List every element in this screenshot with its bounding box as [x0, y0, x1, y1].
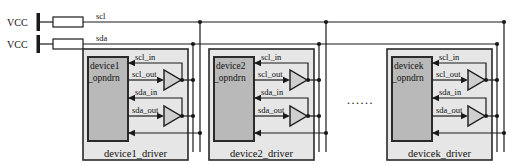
device2-driver-label: device2_driver — [230, 148, 293, 159]
pullup-resistor-scl — [53, 17, 83, 27]
device2-scl-line-junction-dot — [324, 20, 328, 24]
device2-sda-line-junction-dot — [317, 42, 321, 46]
i2c-bus-diagram: VCCsclVCCsdadevice1_opndrndevice1_driver… — [0, 0, 523, 164]
device2-name-label-line1: device2 — [216, 61, 246, 71]
device2-sda-in-label: sda_in — [261, 87, 284, 97]
device2-sda-out-label: sda_out — [258, 105, 285, 115]
device1-driver-label: device1_driver — [104, 148, 167, 159]
devicek-name-label-line1: devicek — [394, 61, 424, 71]
device1-scl-tap-junction-dot — [180, 78, 184, 82]
devicek-name-label-line2: _opndrn — [391, 73, 424, 83]
devicek-scl-tap-junction-dot — [484, 78, 488, 82]
device2-sda-tap-junction-dot — [306, 114, 310, 118]
device1-sda-out-label: sda_out — [132, 105, 159, 115]
devicek-sda-line-junction-dot — [495, 42, 499, 46]
devicek-scl-line-junction-dot — [502, 20, 506, 24]
vcc-terminal-bar-sda — [37, 35, 41, 53]
device1-sda-tap-junction-dot — [180, 114, 184, 118]
device1-name-label-line2: _opndrn — [87, 73, 120, 83]
devicek-scl-in-label: scl_in — [439, 52, 460, 62]
devicek-sda-tap-junction-dot — [484, 114, 488, 118]
device1-scl-in-label: scl_in — [135, 52, 156, 62]
device1-sda-in-label: sda_in — [135, 87, 158, 97]
vcc-label-sda: VCC — [7, 39, 28, 50]
scl-bus-label: scl — [96, 11, 106, 21]
device2-name-label-line2: _opndrn — [213, 73, 246, 83]
device2-scl-in-label: scl_in — [261, 52, 282, 62]
devicek-sda-out-label: sda_out — [436, 105, 463, 115]
sda-bus-label: sda — [96, 33, 108, 43]
devicek-scl-out-label: scl_out — [436, 69, 461, 79]
pullup-resistor-sda — [53, 39, 83, 49]
devicek-sda-in-label: sda_in — [439, 87, 462, 97]
device2-scl-out-label: scl_out — [258, 69, 283, 79]
vcc-terminal-bar-scl — [37, 13, 41, 31]
device1-name-label-line1: device1 — [90, 61, 120, 71]
device1-scl-out-label: scl_out — [132, 69, 157, 79]
diagram-canvas: VCCsclVCCsdadevice1_opndrndevice1_driver… — [0, 0, 523, 164]
device1-sda-line-junction-dot — [191, 42, 195, 46]
more-devices-ellipsis: ...... — [347, 93, 374, 107]
vcc-label-scl: VCC — [7, 17, 28, 28]
device1-scl-line-junction-dot — [198, 20, 202, 24]
devicek-driver-label: devicek_driver — [408, 148, 471, 159]
device2-scl-tap-junction-dot — [306, 78, 310, 82]
